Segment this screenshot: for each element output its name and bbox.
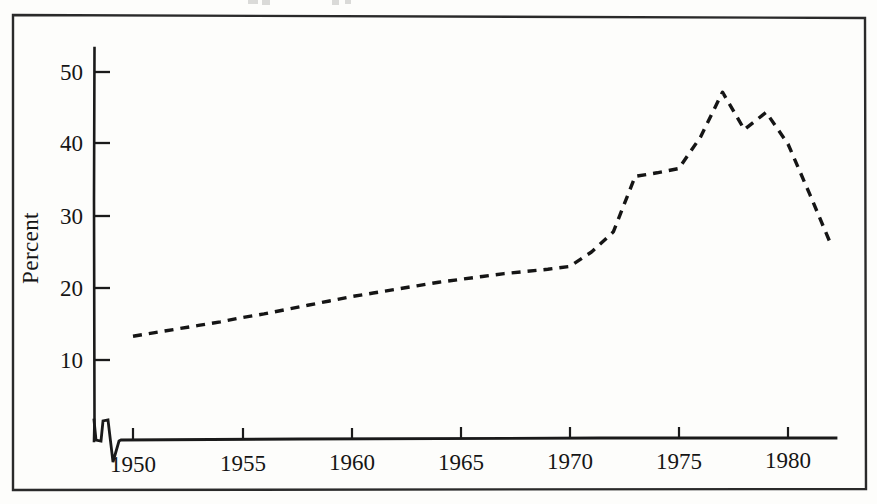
y-tick-label-20: 20 bbox=[60, 276, 83, 301]
x-tick-label-1970: 1970 bbox=[547, 449, 593, 474]
x-tick-label-1965: 1965 bbox=[438, 450, 484, 475]
figure-container: 50 40 30 20 10 Percent 1950 1955 1960 19… bbox=[0, 0, 877, 504]
y-tick-label-30: 30 bbox=[60, 204, 83, 229]
y-tick-label-50: 50 bbox=[60, 60, 83, 85]
y-axis-title: Percent bbox=[18, 212, 43, 284]
x-tick-label-1955: 1955 bbox=[220, 451, 266, 476]
y-tick-label-40: 40 bbox=[60, 131, 83, 156]
clipped-caption-remnant bbox=[248, 0, 351, 5]
y-axis bbox=[94, 48, 110, 441]
x-tick-label-1980: 1980 bbox=[765, 448, 811, 473]
figure-frame bbox=[13, 15, 866, 490]
data-series-line bbox=[133, 92, 832, 336]
x-tick-label-1960: 1960 bbox=[329, 450, 375, 475]
y-tick-label-10: 10 bbox=[60, 348, 83, 373]
x-tick-label-1975: 1975 bbox=[656, 449, 702, 474]
chart-svg: 50 40 30 20 10 Percent 1950 1955 1960 19… bbox=[0, 0, 877, 504]
x-tick-label-1950: 1950 bbox=[110, 452, 156, 477]
